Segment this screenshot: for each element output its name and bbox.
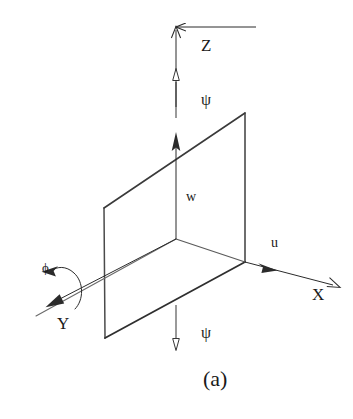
x-axis-arrowhead [327, 278, 340, 288]
vertical-plane-top-edge [104, 113, 245, 208]
u-velocity-arrowhead [258, 263, 277, 273]
psi-upper-arrow [173, 69, 180, 119]
x-axis-group [245, 262, 340, 287]
y-axis-arrowhead [46, 294, 65, 307]
z-axis-label: Z [201, 37, 211, 54]
horizontal-plane-back-edge [176, 239, 245, 262]
axis-system-diagram [0, 0, 353, 419]
u-velocity-label: u [271, 236, 278, 250]
figure-caption: (a) [203, 368, 227, 390]
y-axis-group [46, 239, 177, 307]
psi-lower-arrow [173, 305, 180, 351]
psi-upper-label: ψ [201, 92, 211, 108]
vertical-plane-bottom-edge [105, 262, 245, 338]
y-axis-label: Y [57, 315, 69, 332]
w-velocity-arrow [172, 132, 181, 239]
vertical-plane-left-edge [104, 208, 105, 338]
figure-container: Z X Y w u ψ ψ ϕ (a) [0, 0, 353, 419]
x-axis-label: X [312, 286, 324, 303]
plane-group [36, 113, 245, 338]
y-axis-line [54, 239, 176, 302]
w-velocity-label: w [186, 190, 196, 204]
x-axis-line [245, 262, 333, 285]
psi-lower-label: ψ [201, 325, 211, 341]
phi-roll-label: ϕ [42, 261, 49, 274]
